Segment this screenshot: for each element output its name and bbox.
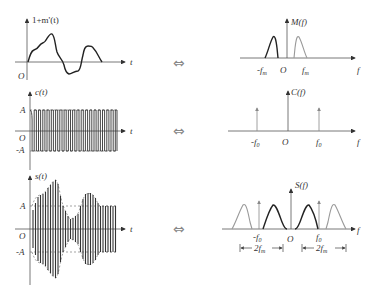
usb-pos-lobe — [326, 204, 346, 229]
usb-neg-lobe — [263, 205, 287, 229]
fourier-pair-arrow: ⇔ — [173, 221, 185, 237]
y-axis-label: s(t) — [35, 171, 47, 181]
origin-label: O — [19, 231, 26, 241]
fourier-pair-arrow: ⇔ — [173, 55, 185, 71]
origin-label: O — [19, 133, 26, 143]
positive-freq-lobe — [294, 37, 307, 58]
y-axis-label: 1+m'(t) — [32, 15, 59, 25]
x-axis-label: f — [357, 225, 361, 235]
bandwidth-label: 2fm — [316, 243, 328, 254]
y-axis-label: C(f) — [291, 87, 306, 97]
x-axis-label: f — [357, 65, 361, 75]
x-axis-label: t — [130, 224, 133, 234]
origin-label: O — [18, 71, 25, 81]
x-axis-label: t — [130, 57, 133, 67]
modulating-waveform — [28, 34, 102, 74]
tick-f0: f0 — [316, 232, 322, 243]
lower-envelope — [32, 239, 117, 278]
bandwidth-marker-positive: 2fm — [302, 243, 346, 254]
am-spectrum-plot: S(f) f O -f0 f0 2fm 2fm — [222, 180, 361, 254]
x-axis-label: t — [130, 126, 133, 136]
level-neg-A-label: -A — [16, 145, 25, 155]
level-A-label: A — [19, 201, 26, 211]
x-axis-label: f — [357, 137, 361, 147]
carrier-time-plot: c(t) t O A -A — [15, 87, 133, 170]
lsb-neg-lobe — [232, 204, 252, 229]
y-axis-label: S(f) — [295, 180, 308, 190]
tick-f0: f0 — [316, 137, 322, 148]
modulating-spectrum-plot: M(f) f O -fm fm — [240, 17, 361, 76]
negative-freq-lobe — [265, 37, 278, 58]
level-neg-A-label: -A — [16, 247, 25, 257]
origin-label: O — [280, 65, 287, 75]
carrier-waveform — [30, 110, 117, 151]
y-axis-label: c(t) — [35, 87, 48, 97]
level-A-label: A — [19, 105, 26, 115]
bandwidth-label: 2fm — [254, 243, 266, 254]
upper-envelope — [32, 180, 117, 219]
am-modulation-diagram: 1+m'(t) t O ⇔ M(f) f O -fm fm c(t) t O A… — [0, 0, 373, 296]
origin-label: O — [282, 137, 289, 147]
tick-neg-f0: -f0 — [251, 137, 260, 148]
tick-neg-f0: -f0 — [253, 232, 262, 243]
fourier-pair-arrow: ⇔ — [173, 123, 185, 139]
bandwidth-marker-negative: 2fm — [240, 243, 283, 254]
carrier-spectrum-plot: C(f) f O -f0 f0 — [228, 87, 361, 148]
tick-fm: fm — [302, 65, 310, 76]
origin-label: O — [287, 234, 294, 244]
y-axis-label: M(f) — [290, 17, 307, 27]
modulating-signal-time-plot: 1+m'(t) t O — [15, 15, 133, 81]
am-signal-time-plot: s(t) t O A -A — [15, 171, 133, 285]
lsb-pos-lobe — [295, 205, 318, 229]
tick-neg-fm: -fm — [257, 65, 268, 76]
